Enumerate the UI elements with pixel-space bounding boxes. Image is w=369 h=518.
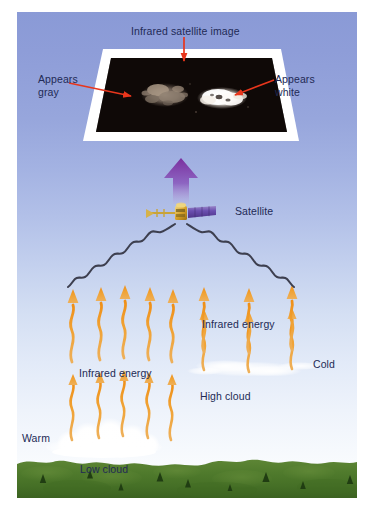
label-low-cloud: Low cloud: [80, 463, 128, 476]
label-satellite: Satellite: [235, 205, 273, 218]
label-cold: Cold: [313, 358, 335, 371]
label-appears-white: Appears white: [275, 73, 315, 98]
label-infrared-energy-low: Infrared energy: [79, 367, 152, 380]
page-title: Infrared satellite image: [131, 25, 240, 38]
label-infrared-energy-high: Infrared energy: [202, 318, 275, 331]
diagram-figure: Infrared satellite image Appears gray Ap…: [0, 0, 369, 518]
label-appears-gray: Appears gray: [38, 73, 78, 98]
terrain-svg: [17, 452, 357, 498]
label-warm: Warm: [22, 432, 50, 445]
label-high-cloud: High cloud: [200, 390, 251, 403]
ground-landscape: [17, 452, 357, 498]
